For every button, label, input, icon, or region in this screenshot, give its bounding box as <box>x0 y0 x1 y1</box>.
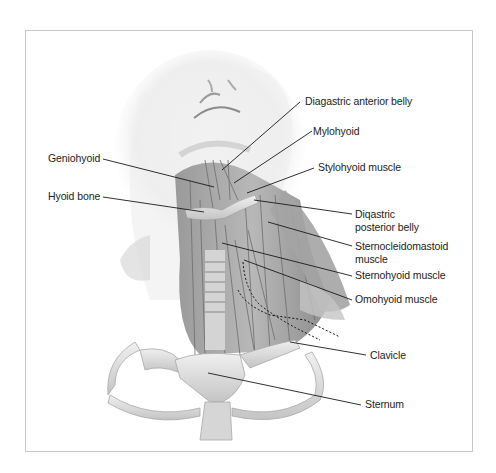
label-sternocleidomastoid-muscle: Sternocleidomastoid muscle <box>355 240 448 266</box>
label-sternohyoid-muscle: Sternohyoid muscle <box>355 269 445 282</box>
label-omohyoid-muscle: Omohyoid muscle <box>355 293 438 306</box>
label-line-2: posterior belly <box>355 221 419 234</box>
label-clavicle: Clavicle <box>370 349 406 362</box>
label-line-1: Sternocleidomastoid <box>355 240 448 253</box>
label-geniohyoid: Geniohyoid <box>48 152 100 165</box>
neck-muscles <box>175 160 350 355</box>
neck-anatomy-illustration <box>0 0 496 473</box>
label-sternum: Sternum <box>365 398 404 411</box>
trachea <box>205 250 225 350</box>
label-diagastric-anterior-belly: Diagastric anterior belly <box>305 95 412 108</box>
label-line-2: muscle <box>355 253 448 266</box>
label-line-1: Diqastric <box>355 208 419 221</box>
label-mylohyoid: Mylohyoid <box>313 125 359 138</box>
label-hyoid-bone: Hyoid bone <box>48 190 100 203</box>
label-stylohyoid-muscle: Stylohyoid muscle <box>318 161 401 174</box>
label-diagastric-posterior-belly: Diqastric posterior belly <box>355 208 419 234</box>
